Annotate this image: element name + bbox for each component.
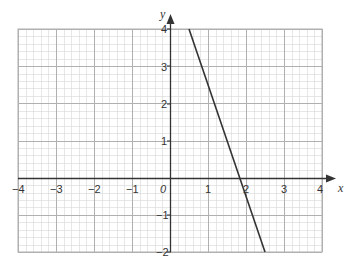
y-tick-label: 3 <box>161 61 167 73</box>
x-tick-label: 3 <box>281 183 287 195</box>
y-tick-label: 4 <box>161 23 167 35</box>
coordinate-graph: x y −4 −3 −2 −1 0 1 2 3 4 4 3 2 1 −1 −2 <box>0 0 349 260</box>
x-axis-label: x <box>337 181 344 195</box>
y-axis-label: y <box>159 7 166 21</box>
x-tick-label: −3 <box>50 183 63 195</box>
origin-label: 0 <box>160 183 167 195</box>
x-axis-arrow-icon <box>326 175 336 183</box>
x-tick-label: −1 <box>126 183 139 195</box>
y-tick-label: −1 <box>156 209 169 221</box>
y-tick-label: −2 <box>156 246 169 258</box>
y-tick-label: 2 <box>161 98 167 110</box>
x-tick-label: −2 <box>88 183 101 195</box>
y-tick-label: 1 <box>161 135 167 147</box>
x-tick-label: 1 <box>205 183 211 195</box>
y-axis-arrow-icon <box>167 14 175 24</box>
x-tick-label: 4 <box>317 183 323 195</box>
x-tick-label: −4 <box>12 183 25 195</box>
